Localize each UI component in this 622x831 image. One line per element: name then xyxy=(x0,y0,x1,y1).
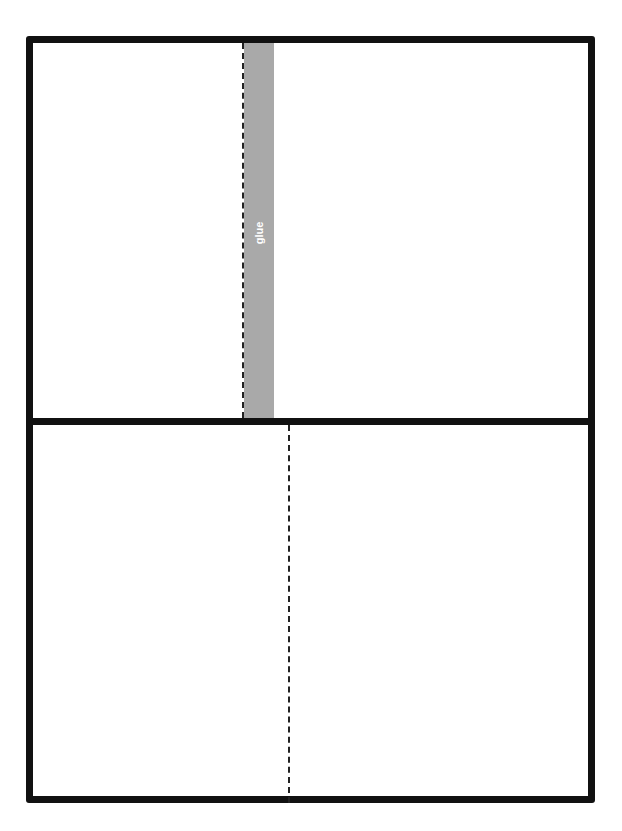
glue-strip: glue xyxy=(244,43,274,418)
glue-label: glue xyxy=(253,222,265,245)
panel-divider xyxy=(33,418,588,425)
fold-line-top xyxy=(242,43,244,418)
fold-line-bottom xyxy=(288,425,290,803)
template-sheet: glue xyxy=(26,36,595,803)
